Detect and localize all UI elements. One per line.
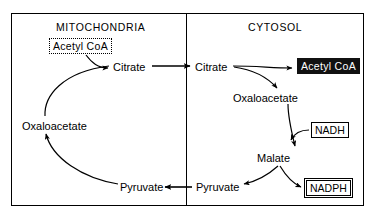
node-acetyl-coa-mitochondria: Acetyl CoA [49,38,112,54]
node-citrate-cytosol: Citrate [195,61,227,73]
node-citrate-mitochondria: Citrate [113,61,145,73]
node-pyruvate-cytosol: Pyruvate [196,181,239,193]
compartment-title-cytosol: CYTOSOL [248,21,302,33]
compartment-title-mitochondria: MITOCHONDRIA [56,21,145,33]
compartment-divider [186,13,187,206]
diagram-canvas: MITOCHONDRIA CYTOSOL Acetyl CoA Citrate … [0,0,376,218]
node-oxaloacetate-mitochondria: Oxaloacetate [22,120,87,132]
node-malate: Malate [257,152,290,164]
node-nadh: NADH [311,122,349,138]
node-oxaloacetate-cytosol: Oxaloacetate [233,92,298,104]
node-acetyl-coa-cytosol: Acetyl CoA [297,58,360,74]
node-pyruvate-mitochondria: Pyruvate [120,181,163,193]
node-nadph: NADPH [306,180,351,196]
